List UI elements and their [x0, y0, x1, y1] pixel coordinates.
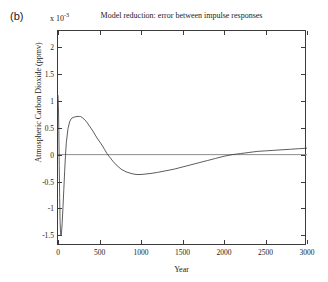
y-axis-tick-mark — [301, 182, 305, 183]
y-axis-tick-mark — [301, 155, 305, 156]
y-axis-tick-mark — [301, 128, 305, 129]
x-axis-tick-mark — [224, 240, 225, 244]
x-axis-tick-mark — [100, 31, 101, 35]
x-axis-tick-mark — [266, 240, 267, 244]
x-axis-tick-label: 1000 — [134, 248, 149, 257]
x-axis-tick-mark — [183, 31, 184, 35]
x-axis-tick-mark — [58, 31, 59, 35]
x-axis-tick-mark — [100, 240, 101, 244]
y-axis-tick-mark — [58, 128, 62, 129]
x-axis-tick-mark — [307, 240, 308, 244]
y-axis-tick-label: 1.5 — [45, 70, 54, 79]
x-axis-tick-mark — [266, 31, 267, 35]
y-axis-tick-mark — [58, 235, 62, 236]
x-axis-tick-label: 3000 — [300, 248, 315, 257]
y-axis-tick-mark — [58, 182, 62, 183]
x-axis-tick-label: 2500 — [258, 248, 273, 257]
x-axis-tick-mark — [141, 240, 142, 244]
x-axis-tick-label: 1500 — [175, 248, 190, 257]
plot-area: 21.510.50-0.5-1-1.5050010001500200025003… — [57, 30, 306, 245]
y-axis-tick-label: -0.5 — [42, 177, 54, 186]
y-axis-tick-label: -1.5 — [42, 231, 54, 240]
y-axis-tick-mark — [58, 155, 62, 156]
y-axis-tick-mark — [301, 101, 305, 102]
panel-label: (b) — [10, 10, 23, 22]
y-axis-tick-label: 0.5 — [45, 123, 54, 132]
x-axis-tick-label: 0 — [56, 248, 60, 257]
y-axis-tick-mark — [301, 208, 305, 209]
y-axis-tick-label: -1 — [48, 204, 54, 213]
y-axis-tick-label: 0 — [50, 150, 54, 159]
plot-canvas — [58, 31, 307, 246]
x-axis-title: Year — [57, 265, 306, 274]
x-axis-tick-mark — [183, 240, 184, 244]
y-axis-tick-mark — [58, 208, 62, 209]
chart-title: Model reduction: error between impulse r… — [57, 11, 306, 20]
y-axis-tick-mark — [58, 101, 62, 102]
data-series-line — [58, 96, 307, 236]
x-axis-tick-mark — [141, 31, 142, 35]
x-axis-tick-mark — [307, 31, 308, 35]
y-axis-tick-mark — [301, 74, 305, 75]
x-axis-tick-label: 2000 — [217, 248, 232, 257]
x-axis-tick-label: 500 — [94, 248, 105, 257]
y-axis-tick-mark — [58, 47, 62, 48]
y-axis-tick-mark — [301, 235, 305, 236]
x-axis-tick-mark — [224, 31, 225, 35]
y-axis-title: Atmospheric Carbon Dioxide (ppmv) — [34, 13, 43, 193]
y-axis-tick-mark — [58, 74, 62, 75]
y-axis-tick-label: 2 — [50, 43, 54, 52]
y-axis-tick-label: 1 — [50, 96, 54, 105]
figure-panel-b: (b) x 10-3 Model reduction: error betwee… — [0, 0, 328, 282]
y-axis-tick-mark — [301, 47, 305, 48]
x-axis-tick-mark — [58, 240, 59, 244]
